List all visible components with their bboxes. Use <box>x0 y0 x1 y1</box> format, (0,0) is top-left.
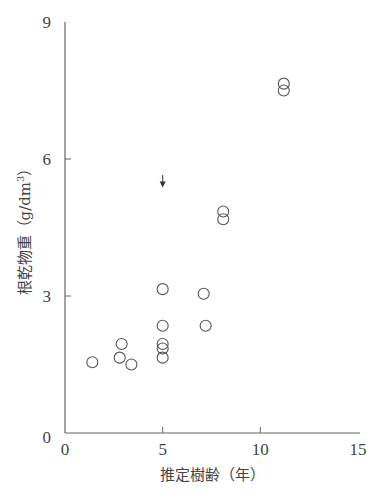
data-point <box>87 357 98 368</box>
data-points <box>87 78 289 370</box>
data-point <box>157 284 168 295</box>
ticks <box>65 159 260 433</box>
x-tick-label: 5 <box>158 440 167 459</box>
data-point <box>278 85 289 96</box>
scatter-chart: 0510150369 推定樹齢（年） 根乾物重（g/dm3） <box>0 0 375 494</box>
x-tick-label: 10 <box>252 440 269 459</box>
arrow-down-icon <box>160 181 166 187</box>
svg-text:根乾物重（g/dm3）: 根乾物重（g/dm3） <box>15 161 34 296</box>
x-tick-label: 15 <box>350 440 367 459</box>
data-point <box>157 320 168 331</box>
axes <box>65 22 360 433</box>
data-point <box>198 288 209 299</box>
y-axis-title-end: ） <box>16 161 34 176</box>
y-axis-title-main: 根乾物重（g/dm <box>16 182 34 295</box>
y-tick-label: 6 <box>43 150 52 169</box>
y-axis-title: 根乾物重（g/dm3） <box>15 161 34 296</box>
data-point <box>218 214 229 225</box>
annotations <box>160 175 166 187</box>
data-point <box>116 338 127 349</box>
data-point <box>278 78 289 89</box>
y-tick-label: 9 <box>43 13 52 32</box>
x-axis-title: 推定樹齢（年） <box>160 466 265 484</box>
tick-labels: 0510150369 <box>43 13 367 459</box>
data-point <box>200 320 211 331</box>
y-tick-label: 3 <box>43 287 52 306</box>
data-point <box>126 359 137 370</box>
x-tick-label: 0 <box>61 440 70 459</box>
y-tick-label: 0 <box>43 428 52 447</box>
data-point <box>114 352 125 363</box>
